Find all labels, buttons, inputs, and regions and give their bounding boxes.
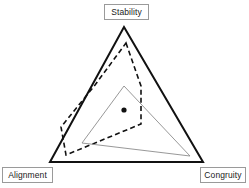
dashed-profile-polygon xyxy=(61,43,141,155)
diagram-canvas: Stability Alignment Congruity xyxy=(0,0,249,188)
centroid-point-marker xyxy=(121,107,126,112)
vertex-label-congruity: Congruity xyxy=(200,167,246,183)
vertex-label-stability: Stability xyxy=(104,4,149,20)
vertex-label-alignment: Alignment xyxy=(2,167,53,183)
triangle-figure xyxy=(0,0,249,188)
outer-boundary-triangle xyxy=(50,27,203,162)
thin-profile-triangle xyxy=(82,86,190,156)
